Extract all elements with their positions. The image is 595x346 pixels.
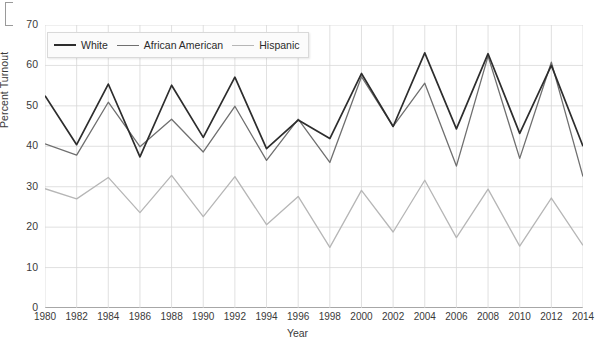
legend-swatch-hispanic — [232, 45, 254, 46]
plot-area — [45, 25, 583, 308]
legend-label-african-american: African American — [144, 39, 223, 51]
series-line-african-american — [45, 56, 583, 176]
y-tick-label: 60 — [8, 58, 38, 70]
x-tick-label: 2014 — [563, 311, 595, 322]
legend-swatch-african-american — [117, 45, 139, 46]
legend-label-white: White — [81, 39, 108, 51]
chart-legend: White African American Hispanic — [47, 32, 309, 58]
y-tick-label: 30 — [8, 180, 38, 192]
x-axis-label: Year — [0, 327, 595, 339]
legend-item-hispanic: Hispanic — [232, 39, 308, 51]
y-tick-label: 10 — [8, 261, 38, 273]
y-tick-label: 70 — [8, 18, 38, 30]
legend-item-white: White — [54, 39, 117, 51]
chart-figure: Percent Turnout Year 010203040506070 198… — [0, 0, 595, 346]
legend-label-hispanic: Hispanic — [259, 39, 299, 51]
y-tick-label: 50 — [8, 99, 38, 111]
y-tick-label: 40 — [8, 139, 38, 151]
y-tick-label: 20 — [8, 220, 38, 232]
line-chart-svg — [45, 25, 583, 308]
legend-item-african-american: African American — [117, 39, 232, 51]
legend-swatch-white — [54, 44, 76, 46]
series-line-hispanic — [45, 175, 583, 247]
